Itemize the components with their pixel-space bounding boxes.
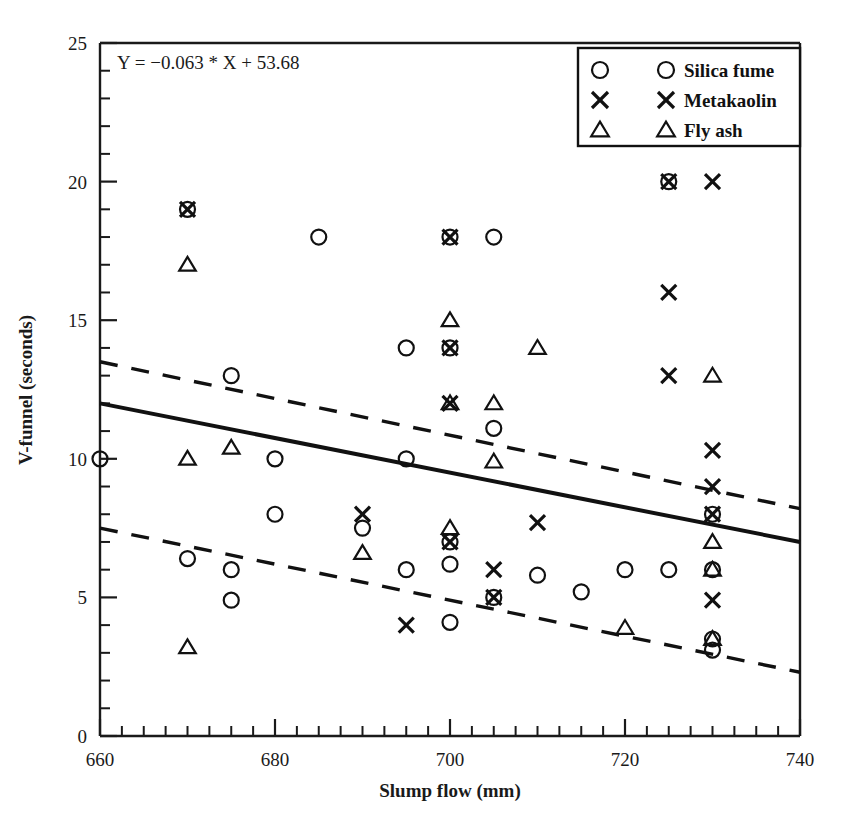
data-point-circle xyxy=(443,557,458,572)
data-point-cross xyxy=(399,618,414,633)
data-point-triangle xyxy=(179,257,196,271)
legend: Silica fumeMetakaolinFly ash xyxy=(578,48,800,146)
data-markers-group xyxy=(93,174,721,657)
figure-container: 0510152025660680700720740 Y = −0.063 * X… xyxy=(0,0,841,825)
data-point-cross xyxy=(443,534,458,549)
data-point-cross xyxy=(705,593,720,608)
data-point-triangle xyxy=(704,368,721,382)
data-point-circle xyxy=(443,615,458,630)
data-point-cross xyxy=(705,443,720,458)
data-point-triangle xyxy=(442,312,459,326)
scatter-chart: 0510152025660680700720740 Y = −0.063 * X… xyxy=(0,0,841,825)
data-point-triangle xyxy=(179,639,196,653)
data-point-cross xyxy=(661,368,676,383)
data-point-triangle xyxy=(485,454,502,468)
y-tick-label: 0 xyxy=(78,726,88,747)
data-point-circle xyxy=(224,593,239,608)
data-point-triangle xyxy=(179,451,196,465)
data-point-circle xyxy=(224,562,239,577)
data-point-triangle xyxy=(529,340,546,354)
data-point-triangle xyxy=(485,395,502,409)
data-point-triangle xyxy=(223,440,240,454)
axis-labels-group: Y = −0.063 * X + 53.68 Slump flow (mm) V… xyxy=(15,52,521,802)
y-tick-label: 15 xyxy=(68,310,87,331)
data-point-cross xyxy=(486,590,501,605)
data-point-circle xyxy=(661,562,676,577)
x-tick-label: 680 xyxy=(261,749,290,770)
data-point-circle xyxy=(268,507,283,522)
x-tick-label: 660 xyxy=(86,749,115,770)
data-point-cross xyxy=(661,174,676,189)
data-point-cross xyxy=(661,285,676,300)
data-point-circle xyxy=(574,584,589,599)
data-point-cross xyxy=(355,507,370,522)
data-point-cross xyxy=(443,230,458,245)
upper-confidence-line xyxy=(100,362,800,509)
data-point-triangle xyxy=(354,545,371,559)
data-point-cross xyxy=(486,562,501,577)
data-point-cross xyxy=(705,479,720,494)
data-point-triangle xyxy=(617,620,634,634)
data-point-circle xyxy=(618,562,633,577)
legend-label: Silica fume xyxy=(684,60,774,81)
x-tick-label: 740 xyxy=(786,749,815,770)
data-point-circle xyxy=(224,368,239,383)
y-axis-title: V-funnel (seconds) xyxy=(15,315,37,465)
y-tick-label: 5 xyxy=(78,587,88,608)
data-point-triangle xyxy=(442,520,459,534)
y-tick-label: 20 xyxy=(68,172,87,193)
data-point-circle xyxy=(486,230,501,245)
x-tick-label: 720 xyxy=(611,749,640,770)
data-point-circle xyxy=(530,568,545,583)
regression-equation-annotation: Y = −0.063 * X + 53.68 xyxy=(117,52,299,73)
legend-label: Fly ash xyxy=(684,120,743,141)
data-point-triangle xyxy=(704,534,721,548)
data-point-circle xyxy=(311,230,326,245)
data-point-cross xyxy=(443,340,458,355)
data-point-circle xyxy=(399,340,414,355)
data-point-circle xyxy=(399,562,414,577)
data-point-cross xyxy=(705,507,720,522)
y-tick-label: 10 xyxy=(68,449,87,470)
data-point-circle xyxy=(180,551,195,566)
data-point-cross xyxy=(180,202,195,217)
data-point-circle xyxy=(486,421,501,436)
x-axis-title: Slump flow (mm) xyxy=(379,780,520,802)
y-tick-label: 25 xyxy=(68,33,87,54)
legend-label: Metakaolin xyxy=(684,90,777,111)
data-point-cross xyxy=(530,515,545,530)
data-point-circle xyxy=(355,521,370,536)
x-tick-label: 700 xyxy=(436,749,465,770)
data-point-cross xyxy=(705,174,720,189)
data-point-circle xyxy=(268,451,283,466)
